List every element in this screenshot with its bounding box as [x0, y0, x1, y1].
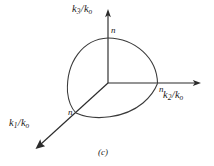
k1-denominator-subscript: o: [26, 121, 30, 130]
n-label-k1-intercept: n: [68, 108, 73, 117]
coordinate-diagram: [0, 0, 214, 166]
k2-axis-label: k2/ko: [163, 90, 183, 101]
k3-axis-label: k3/ko: [72, 4, 92, 15]
figure-container: k3/ko k2/ko k1/ko n n n (c): [0, 0, 214, 166]
k1-axis-label: k1/ko: [9, 118, 29, 129]
n-label-k3-intercept: n: [111, 26, 116, 35]
k1-axis-line: [41, 83, 108, 144]
k1-axis-arrowhead: [36, 139, 46, 149]
k2-denominator-subscript: o: [180, 93, 184, 102]
figure-caption: (c): [98, 148, 108, 157]
arc-k3-to-k2: [108, 38, 158, 84]
n-label-k2-intercept: n: [159, 85, 164, 94]
k3-denominator-subscript: o: [89, 7, 93, 16]
